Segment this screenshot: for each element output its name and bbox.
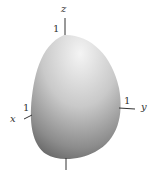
x-axis-line — [24, 115, 32, 119]
y-axis-label: y — [141, 102, 147, 112]
z-tick-label: 1 — [53, 24, 59, 34]
x-tick-label: 1 — [23, 103, 29, 113]
z-axis-label: z — [61, 4, 66, 14]
y-tick-label: 1 — [124, 96, 130, 106]
egg-surface — [31, 35, 121, 159]
surface-plot — [0, 0, 159, 174]
y-axis-line — [119, 108, 135, 109]
x-axis-label: x — [10, 114, 16, 124]
